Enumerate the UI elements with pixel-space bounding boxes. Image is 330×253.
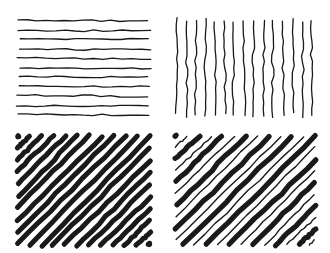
hatch-stroke	[17, 95, 148, 97]
hatch-stroke	[18, 30, 151, 32]
diagonal-hatch-alternating-canvas	[165, 127, 330, 253]
hatch-stroke	[20, 68, 151, 69]
diagonal-hatch-uniform-canvas	[0, 127, 165, 253]
hatch-stroke	[18, 114, 149, 116]
hatch-stroke	[18, 136, 19, 137]
hatch-stroke	[20, 49, 151, 51]
hatch-stroke	[232, 22, 234, 115]
diagonal-hatch-alternating-panel	[165, 127, 330, 253]
hatch-stroke	[19, 86, 149, 87]
hatch-stroke	[309, 240, 314, 245]
hatch-stroke	[229, 160, 316, 244]
hatch-stroke	[186, 21, 188, 117]
hatch-stroke	[17, 57, 151, 59]
hatch-stroke	[243, 21, 246, 116]
hatch-stroke	[183, 137, 291, 244]
hatch-stroke	[206, 136, 315, 245]
hatch-stroke	[224, 21, 227, 114]
hatch-stroke	[292, 19, 294, 113]
hatch-stroke	[282, 21, 284, 115]
hatch-stroke	[20, 38, 148, 39]
diagonal-hatch-uniform-panel	[0, 127, 165, 253]
hatch-stroke	[176, 136, 222, 181]
hatch-stroke	[301, 22, 304, 118]
hatch-stroke	[16, 105, 148, 106]
hatch-stroke	[271, 20, 273, 117]
vertical-hatch-panel	[165, 0, 330, 127]
horizontal-hatch-canvas	[0, 0, 165, 127]
hatch-stroke	[252, 21, 254, 117]
hatch-stroke	[18, 20, 148, 22]
hatch-stroke	[175, 136, 235, 193]
hatch-stroke	[310, 21, 312, 116]
hatch-stroke	[263, 20, 265, 116]
hatch-stroke	[148, 243, 149, 244]
hatch-stroke	[175, 135, 176, 136]
vertical-hatch-canvas	[165, 0, 330, 127]
hatch-stroke	[175, 136, 200, 158]
figure-root	[0, 0, 330, 253]
hatch-stroke	[204, 18, 206, 116]
hatch-stroke	[19, 76, 147, 78]
horizontal-hatch-panel	[0, 0, 165, 127]
hatch-stroke	[176, 18, 178, 114]
hatch-stroke	[195, 20, 197, 114]
hatch-stroke	[241, 171, 314, 244]
hatch-stroke	[214, 22, 216, 115]
